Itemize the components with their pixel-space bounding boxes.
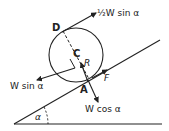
angle-arc <box>44 107 48 124</box>
label-angle: α <box>35 112 41 122</box>
label-force-normal: W cos α <box>85 104 121 114</box>
label-d: D <box>52 22 60 33</box>
force-normal-arrow <box>88 80 98 102</box>
label-f: F <box>104 73 110 83</box>
label-r: R <box>84 58 90 68</box>
label-a: A <box>80 84 88 95</box>
label-force-top: ½W sin α <box>97 8 139 18</box>
force-down-slope-tie <box>70 59 75 68</box>
force-top-arrow <box>62 13 96 32</box>
diagram-canvas: D C R F A ½W sin α W sin α W cos α α <box>0 0 169 131</box>
force-down-slope-arrow <box>37 68 75 80</box>
label-c: C <box>73 48 80 59</box>
force-diagram: D C R F A ½W sin α W sin α W cos α α <box>0 0 169 131</box>
label-force-down-slope: W sin α <box>10 81 44 91</box>
